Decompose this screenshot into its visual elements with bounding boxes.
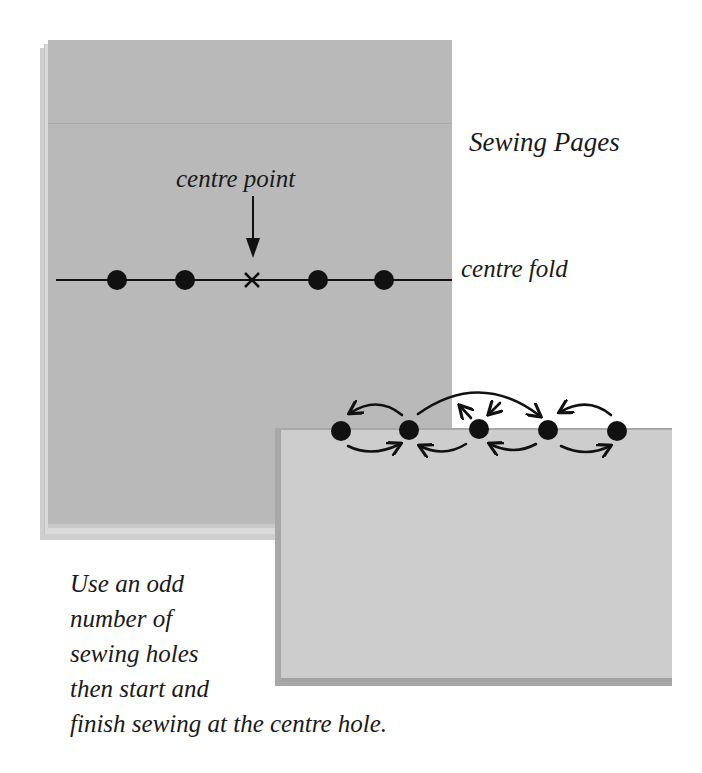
- fold-hole: [308, 270, 328, 290]
- stitch-hole: [469, 419, 489, 439]
- fold-hole: [107, 270, 127, 290]
- instruction-line: finish sewing at the centre hole.: [70, 706, 387, 741]
- fold-hole: [175, 270, 195, 290]
- instruction-line: sewing holes: [70, 636, 387, 671]
- stitch-hole: [607, 421, 627, 441]
- centre-point-label: centre point: [176, 165, 295, 193]
- instruction-line: Use an odd: [70, 566, 387, 601]
- fold-hole: [374, 270, 394, 290]
- arrow-curve-icon: [561, 446, 610, 452]
- arrow-curve-icon: [560, 405, 611, 415]
- stitch-hole: [538, 420, 558, 440]
- title: Sewing Pages: [469, 127, 620, 158]
- arrow-curve-icon: [460, 406, 471, 418]
- stitch-hole: [399, 420, 419, 440]
- instruction-text: Use an odd number of sewing holes then s…: [70, 566, 387, 741]
- instruction-line: then start and: [70, 671, 387, 706]
- stitch-hole: [331, 421, 351, 441]
- arrow-curve-icon: [490, 444, 536, 450]
- instruction-line: number of: [70, 601, 387, 636]
- arrow-curve-icon: [350, 404, 402, 415]
- arrow-curve-icon: [489, 403, 500, 414]
- arrow-curve-icon: [348, 444, 400, 452]
- arrow-curve-icon: [420, 444, 466, 452]
- arrow-curve-icon: [418, 392, 540, 416]
- stitch-holes: [331, 419, 627, 441]
- centre-point-arrow-icon: [246, 196, 260, 258]
- centre-fold-label: centre fold: [461, 255, 568, 283]
